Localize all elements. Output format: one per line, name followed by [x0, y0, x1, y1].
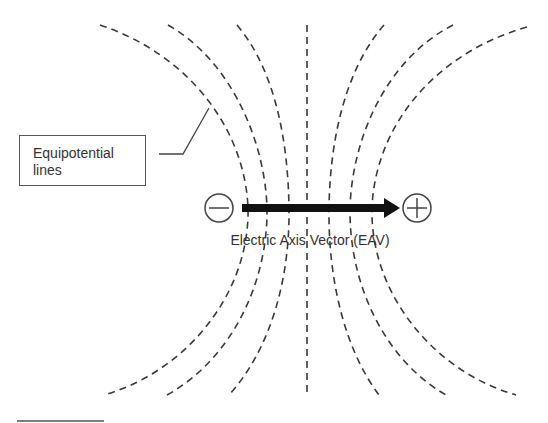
callout-line-1: Equipotential: [33, 145, 114, 162]
callout-text: Equipotential lines: [33, 145, 114, 179]
callout-leader-line: [159, 108, 209, 154]
callout-line-2: lines: [33, 162, 114, 179]
eav-arrow: [242, 198, 400, 218]
eav-label: Electric Axis Vector (EAV): [200, 232, 420, 248]
plus-circle-icon: [403, 194, 431, 222]
minus-circle-icon: [205, 194, 233, 222]
equipotential-diagram: [0, 0, 548, 423]
equipotential-line-right-3: [372, 27, 527, 395]
equipotential-callout-box: Equipotential lines: [19, 135, 146, 186]
